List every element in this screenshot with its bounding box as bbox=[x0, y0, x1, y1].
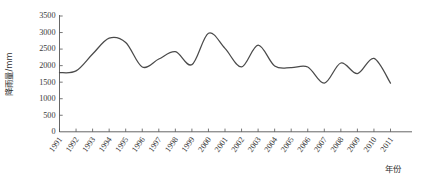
y-tick-label: 1000 bbox=[39, 94, 55, 103]
x-axis-label: 年份 bbox=[385, 164, 402, 174]
x-tick-label: 2008 bbox=[329, 135, 346, 154]
rainfall-line-chart: 0500100015002000250030003500 19911992199… bbox=[0, 0, 431, 184]
x-axis-ticks bbox=[60, 129, 391, 132]
y-tick-label: 0 bbox=[51, 127, 55, 136]
x-tick-label: 1994 bbox=[97, 135, 114, 154]
x-tick-label: 1997 bbox=[147, 135, 164, 154]
y-tick-label: 500 bbox=[43, 111, 55, 120]
x-tick-label: 2006 bbox=[296, 135, 313, 154]
x-tick-label: 1993 bbox=[80, 135, 97, 154]
x-tick-label: 2007 bbox=[312, 135, 329, 154]
x-tick-label: 1998 bbox=[163, 135, 180, 154]
x-tick-label: 1991 bbox=[47, 135, 64, 154]
y-tick-label: 2000 bbox=[39, 61, 55, 70]
x-tick-label: 1992 bbox=[64, 135, 81, 154]
rainfall-series-line bbox=[60, 33, 391, 83]
y-tick-label: 3500 bbox=[39, 11, 55, 20]
y-axis-group: 0500100015002000250030003500 bbox=[39, 11, 63, 136]
x-axis-group: 1991199219931994199519961997199819992000… bbox=[47, 129, 412, 154]
x-tick-label: 2000 bbox=[196, 135, 213, 154]
x-tick-label: 2005 bbox=[279, 135, 296, 154]
x-tick-label: 2001 bbox=[213, 135, 230, 154]
y-axis-tick-labels: 0500100015002000250030003500 bbox=[39, 11, 55, 136]
x-tick-label: 1999 bbox=[180, 135, 197, 154]
y-axis-ticks bbox=[60, 16, 63, 115]
x-tick-label: 2003 bbox=[246, 135, 263, 154]
x-tick-label: 2004 bbox=[263, 135, 280, 154]
x-tick-label: 2011 bbox=[379, 135, 396, 153]
y-axis-label: 降雨量/mm bbox=[4, 52, 14, 95]
x-tick-label: 1996 bbox=[130, 135, 147, 154]
y-tick-label: 2500 bbox=[39, 44, 55, 53]
y-tick-label: 3000 bbox=[39, 28, 55, 37]
x-tick-label: 2002 bbox=[229, 135, 246, 154]
x-tick-label: 2009 bbox=[345, 135, 362, 154]
x-tick-label: 2010 bbox=[362, 135, 379, 154]
x-axis-tick-labels: 1991199219931994199519961997199819992000… bbox=[47, 135, 395, 154]
x-tick-label: 1995 bbox=[114, 135, 131, 154]
y-tick-label: 1500 bbox=[39, 78, 55, 87]
chart-canvas: 0500100015002000250030003500 19911992199… bbox=[0, 0, 431, 184]
